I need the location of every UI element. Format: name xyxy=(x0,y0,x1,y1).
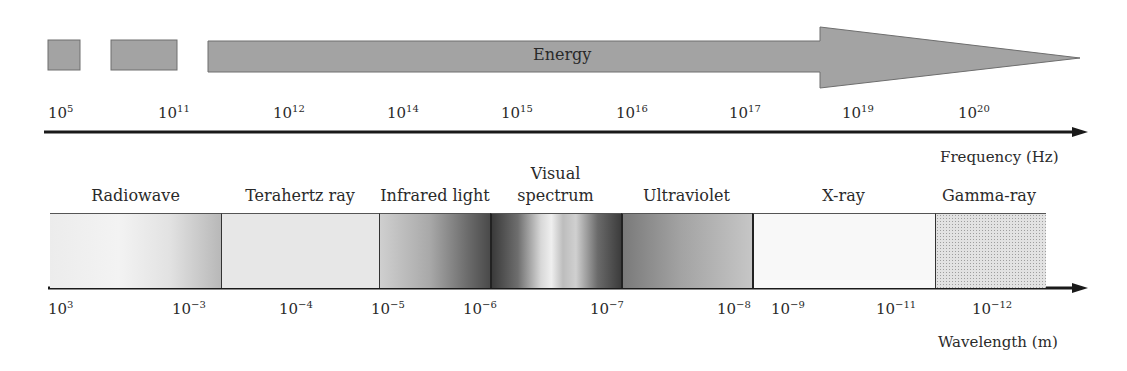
energy-label: Energy xyxy=(533,45,591,64)
frequency-tick: 1011 xyxy=(158,104,190,121)
band-radiowave xyxy=(50,213,221,288)
band-label-xray: X-ray xyxy=(752,186,935,205)
band-terahertz xyxy=(221,213,379,288)
frequency-tick: 1017 xyxy=(729,104,761,121)
wavelength-tick: 10−9 xyxy=(771,300,805,317)
wavelength-tick: 103 xyxy=(48,300,73,317)
band-infrared xyxy=(379,213,490,288)
frequency-tick: 1019 xyxy=(842,104,874,121)
band-gamma xyxy=(935,213,1046,288)
wavelength-tick: 10−6 xyxy=(463,300,497,317)
wavelength-axis-arrowhead xyxy=(1072,283,1088,293)
band-xray xyxy=(752,213,935,288)
frequency-axis-arrowhead xyxy=(1072,127,1088,137)
band-label-gamma: Gamma-ray xyxy=(930,186,1048,205)
wavelength-tick: 10−7 xyxy=(590,300,624,317)
energy-block-2 xyxy=(111,40,177,70)
band-label-radiowave: Radiowave xyxy=(50,186,221,205)
frequency-axis-title: Frequency (Hz) xyxy=(940,148,1059,166)
band-label-visual-line2: spectrum xyxy=(490,186,621,205)
energy-arrow-shape xyxy=(208,27,1080,88)
frequency-tick: 1015 xyxy=(501,104,533,121)
band-label-ultraviolet: Ultraviolet xyxy=(621,186,752,205)
band-ultraviolet xyxy=(621,213,752,288)
wavelength-tick: 10−4 xyxy=(279,300,313,317)
frequency-tick: 1020 xyxy=(958,104,990,121)
frequency-tick: 1016 xyxy=(616,104,648,121)
band-label-visual-line1: Visual xyxy=(490,164,621,183)
wavelength-tick: 10−11 xyxy=(876,300,916,317)
band-visual-spectrum xyxy=(490,213,621,288)
band-label-terahertz: Terahertz ray xyxy=(221,186,379,205)
energy-block-1 xyxy=(48,40,80,70)
wavelength-tick: 10−5 xyxy=(371,300,405,317)
wavelength-tick: 10−3 xyxy=(172,300,206,317)
band-label-infrared: Infrared light xyxy=(370,186,500,205)
frequency-tick: 1012 xyxy=(273,104,305,121)
wavelength-axis-title: Wavelength (m) xyxy=(938,333,1058,351)
wavelength-tick: 10−8 xyxy=(717,300,751,317)
wavelength-tick: 10−12 xyxy=(972,300,1012,317)
frequency-tick: 1014 xyxy=(387,104,419,121)
frequency-tick: 105 xyxy=(48,104,73,121)
